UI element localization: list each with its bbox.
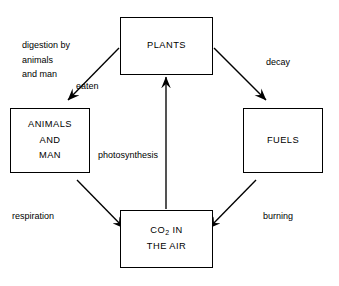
edge-animals-to-co2	[77, 180, 124, 228]
edge-label-eaten: eaten	[76, 79, 99, 94]
edge-label-digestion-line2: animals	[22, 53, 108, 68]
co2-box: CO2 IN THE AIR	[120, 210, 213, 268]
edge-label-decay: decay	[266, 55, 290, 70]
edge-fuels-to-co2	[209, 180, 256, 228]
edge-label-digestion-line1: digestion by	[22, 38, 108, 53]
plants-box-label: PLANTS	[147, 38, 186, 54]
co2-box-label-line1: CO2 IN	[150, 223, 182, 239]
co2-formula-subscript: 2	[165, 229, 169, 236]
carbon-cycle-diagram: PLANTS ANIMALS AND MAN FUELS CO2 IN THE …	[0, 0, 339, 286]
fuels-box-label: FUELS	[267, 133, 299, 149]
animals-box-label-line2: AND	[40, 133, 61, 149]
edge-label-respiration: respiration	[12, 209, 54, 224]
edge-label-photosynthesis: photosynthesis	[98, 148, 158, 163]
edge-label-burning: burning	[263, 209, 293, 224]
co2-formula-prefix: CO	[150, 225, 165, 235]
edge-plants-to-fuels	[214, 48, 266, 100]
animals-box-label-line1: ANIMALS	[28, 117, 72, 133]
plants-box: PLANTS	[120, 17, 213, 75]
animals-box-label-line3: MAN	[39, 148, 61, 164]
edge-label-digestion: digestion by animals and man	[22, 38, 108, 82]
co2-box-label-line2: THE AIR	[147, 239, 186, 255]
fuels-box: FUELS	[243, 108, 323, 173]
animals-box: ANIMALS AND MAN	[10, 108, 90, 173]
co2-formula-suffix: IN	[169, 225, 182, 235]
